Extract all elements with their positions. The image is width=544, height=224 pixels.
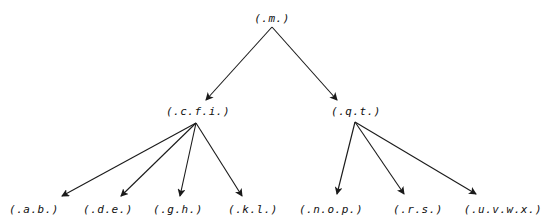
edge-cfi-to-de	[121, 123, 196, 196]
tree-edges	[0, 0, 544, 224]
node-rs: (.r.s.)	[393, 204, 443, 215]
node-nop: (.n.o.p.)	[299, 204, 363, 215]
node-qt: (.q.t.)	[331, 106, 381, 117]
edge-cfi-to-ab	[62, 123, 196, 196]
edge-cfi-to-gh	[180, 123, 196, 196]
edge-qt-to-uvwx	[355, 122, 476, 194]
edge-root-to-qt	[272, 27, 337, 100]
edge-qt-to-rs	[355, 122, 404, 194]
edge-root-to-cfi	[206, 27, 272, 100]
node-cfi: (.c.f.i.)	[166, 106, 230, 117]
node-kl: (.k.l.)	[228, 204, 278, 215]
node-ab: (.a.b.)	[9, 204, 59, 215]
edge-cfi-to-kl	[196, 123, 242, 196]
tree-diagram: (.m.) (.c.f.i.) (.q.t.) (.a.b.) (.d.e.) …	[0, 0, 544, 224]
edge-group	[62, 27, 476, 196]
node-root-m: (.m.)	[254, 13, 290, 24]
node-gh: (.g.h.)	[153, 204, 203, 215]
node-uvwx: (.u.v.w.x.)	[464, 204, 542, 215]
node-de: (.d.e.)	[83, 204, 133, 215]
edge-qt-to-nop	[337, 122, 355, 194]
